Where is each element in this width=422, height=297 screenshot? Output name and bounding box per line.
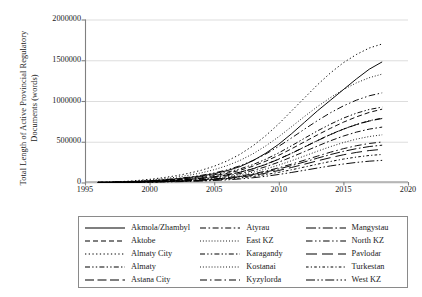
legend-item-aktobe[interactable]: Aktobe — [85, 236, 200, 246]
legend-swatch — [85, 223, 125, 233]
legend-label: Akmola/Zhambyl — [131, 223, 190, 233]
legend-label: Karagandy — [246, 249, 282, 259]
legend-item-west-kz[interactable]: West KZ — [306, 275, 401, 285]
series-line-pavlodar — [98, 149, 382, 182]
legend-label: West KZ — [352, 275, 382, 285]
legend-item-almaty[interactable]: Almaty — [85, 262, 200, 272]
legend-swatch — [85, 275, 125, 285]
legend-label: Atyrau — [246, 223, 269, 233]
x-tick-label: 2005 — [206, 185, 222, 194]
legend-item-karagandy[interactable]: Karagandy — [200, 249, 305, 259]
legend-item-mangystau[interactable]: Mangystau — [306, 223, 401, 233]
legend-row: AktobeEast KZNorth KZ — [85, 234, 401, 247]
legend-swatch — [85, 249, 125, 259]
x-tick-label: 2020 — [400, 185, 416, 194]
plot-svg — [85, 18, 408, 188]
legend-label: Almaty — [131, 262, 156, 272]
legend-swatch — [306, 249, 346, 259]
plot-area — [85, 18, 408, 181]
legend-item-akmola-zhambyl[interactable]: Akmola/Zhambyl — [85, 223, 200, 233]
x-tick-label: 2015 — [335, 185, 351, 194]
legend-swatch — [200, 236, 240, 246]
y-tick-label: 1000000 — [52, 95, 81, 104]
legend-box: Akmola/ZhambylAtyrauMangystauAktobeEast … — [78, 216, 408, 288]
legend-item-kostanai[interactable]: Kostanai — [200, 262, 305, 272]
legend-swatch — [200, 223, 240, 233]
legend-label: Turkestan — [352, 262, 385, 272]
y-axis-tick-labels: 0500000100000015000002000000 — [0, 18, 81, 181]
legend-swatch — [85, 236, 125, 246]
legend-label: Pavlodar — [352, 249, 382, 259]
legend-item-east-kz[interactable]: East KZ — [200, 236, 305, 246]
series-line-west-kz — [98, 160, 382, 182]
legend-label: Aktobe — [131, 236, 155, 246]
legend-label: Almaty City — [131, 249, 172, 259]
legend-row: Astana CityKyzylordaWest KZ — [85, 273, 401, 286]
legend-swatch — [306, 223, 346, 233]
series-line-mangystau — [98, 145, 382, 182]
series-line-almaty — [98, 118, 382, 182]
series-line-karagandy — [98, 107, 382, 182]
legend-swatch — [306, 275, 346, 285]
legend-swatch — [85, 262, 125, 272]
legend-row: Akmola/ZhambylAtyrauMangystau — [85, 221, 401, 234]
series-line-almaty-city — [98, 44, 382, 182]
legend-item-atyrau[interactable]: Atyrau — [200, 223, 305, 233]
legend-swatch — [306, 236, 346, 246]
legend-label: North KZ — [352, 236, 385, 246]
legend-label: East KZ — [246, 236, 273, 246]
legend-label: Kostanai — [246, 262, 276, 272]
legend-item-kyzylorda[interactable]: Kyzylorda — [200, 275, 305, 285]
series-line-aktobe — [98, 109, 382, 182]
series-line-turkestan — [98, 154, 382, 182]
legend-label: Mangystau — [352, 223, 389, 233]
legend-row: AlmatyKostanaiTurkestan — [85, 260, 401, 273]
series-line-atyrau — [98, 127, 382, 182]
y-tick-label: 500000 — [56, 136, 81, 145]
legend-item-turkestan[interactable]: Turkestan — [306, 262, 401, 272]
x-tick-label: 2000 — [141, 185, 157, 194]
legend-row: Almaty CityKaragandyPavlodar — [85, 247, 401, 260]
x-axis-tick-labels: 199520002005201020152020 — [85, 185, 408, 199]
legend-label: Astana City — [131, 275, 170, 285]
legend-item-pavlodar[interactable]: Pavlodar — [306, 249, 401, 259]
legend-swatch — [306, 262, 346, 272]
legend-label: Kyzylorda — [246, 275, 281, 285]
series-line-astana-city — [98, 119, 382, 183]
x-tick-label: 2010 — [271, 185, 287, 194]
legend-swatch — [200, 275, 240, 285]
chart-figure: Total Length of Active Provincial Regula… — [0, 0, 422, 297]
y-tick-label: 1500000 — [52, 54, 81, 63]
legend-swatch — [200, 249, 240, 259]
legend-item-astana-city[interactable]: Astana City — [85, 275, 200, 285]
legend-item-almaty-city[interactable]: Almaty City — [85, 249, 200, 259]
y-tick-label: 2000000 — [52, 14, 81, 23]
legend-swatch — [200, 262, 240, 272]
x-tick-label: 1995 — [77, 185, 93, 194]
legend-item-north-kz[interactable]: North KZ — [306, 236, 401, 246]
